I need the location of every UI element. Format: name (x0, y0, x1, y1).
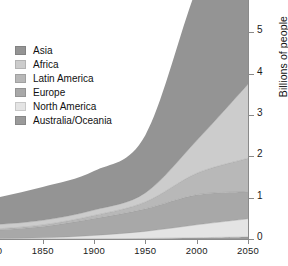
x-axis-label-1850: 1850 (32, 246, 54, 256)
legend-label-africa: Africa (33, 59, 59, 70)
x-tick-1900 (94, 240, 95, 244)
legend-swatch-icon-north-america (15, 102, 26, 111)
y-axis-label-1: 1 (257, 191, 263, 201)
legend-swatch-icon-australia-oceania (15, 116, 26, 125)
legend-label-australia-oceania: Australia/Oceania (33, 115, 112, 126)
legend-swatch-icon-europe (15, 88, 26, 97)
legend-label-north-america: North America (33, 101, 96, 112)
y-tick-0 (249, 239, 254, 240)
legend-swatch-icon-africa (15, 60, 26, 69)
y-axis-label-5: 5 (257, 25, 263, 35)
x-tick-1850 (43, 240, 44, 244)
y-tick-5 (249, 32, 254, 33)
legend-label-latin-america: Latin America (33, 73, 94, 84)
legend-swatch-icon-latin-america (15, 74, 26, 83)
legend-item-asia: Asia (15, 43, 112, 57)
x-axis-label-1900: 1900 (83, 246, 105, 256)
y-axis-label-3: 3 (257, 108, 263, 118)
legend-item-europe: Europe (15, 85, 112, 99)
x-axis-label-1800: 1800 (0, 246, 2, 256)
y-axis-label-4: 4 (257, 67, 263, 77)
x-tick-2050 (248, 240, 249, 244)
x-axis-line (0, 239, 249, 240)
x-axis-label-2000: 2000 (186, 246, 208, 256)
y-axis-line (248, 0, 249, 240)
population-area-chart: 6 5 4 3 2 1 0 1800 1850 1900 1950 2000 2… (0, 0, 288, 266)
legend-swatch-icon-asia (15, 46, 26, 55)
chart-legend: Asia Africa Latin America Europe North A… (15, 43, 112, 127)
y-tick-2 (249, 156, 254, 157)
x-tick-2000 (197, 240, 198, 244)
legend-label-asia: Asia (33, 45, 52, 56)
legend-item-latin-america: Latin America (15, 71, 112, 85)
x-axis-label-2050: 2050 (237, 246, 259, 256)
legend-label-europe: Europe (33, 87, 65, 98)
x-axis-label-1950: 1950 (134, 246, 156, 256)
y-tick-1 (249, 198, 254, 199)
y-axis-label-0: 0 (257, 232, 263, 242)
legend-item-australia-oceania: Australia/Oceania (15, 113, 112, 127)
legend-item-north-america: North America (15, 99, 112, 113)
legend-item-africa: Africa (15, 57, 112, 71)
y-axis-title: Billions of people (277, 16, 288, 97)
y-axis-label-2: 2 (257, 149, 263, 159)
y-tick-3 (249, 115, 254, 116)
x-tick-1950 (145, 240, 146, 244)
y-tick-4 (249, 74, 254, 75)
